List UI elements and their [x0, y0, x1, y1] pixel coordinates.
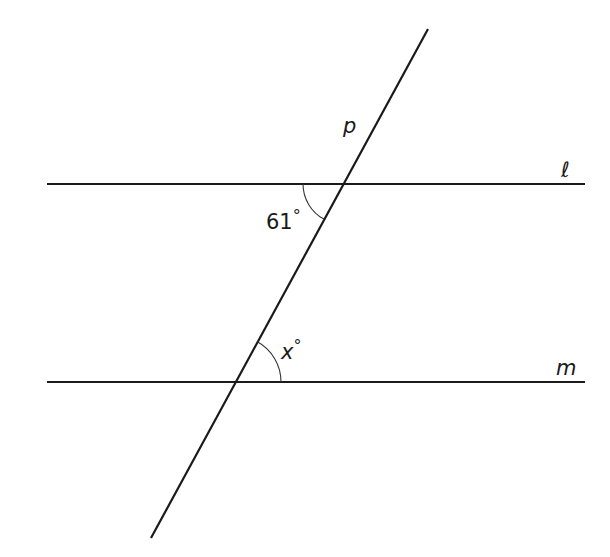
angle-arc-61: [303, 184, 324, 219]
angle-arc-x: [257, 342, 281, 382]
parallel-lines-diagram: p ℓ m 61° x°: [0, 0, 610, 557]
angle-label-x: x°: [280, 336, 301, 364]
label-p: p: [342, 114, 356, 138]
label-m: m: [556, 356, 576, 380]
label-l: ℓ: [560, 158, 570, 182]
angle-label-61: 61°: [266, 206, 301, 234]
transversal-p: [151, 29, 428, 538]
